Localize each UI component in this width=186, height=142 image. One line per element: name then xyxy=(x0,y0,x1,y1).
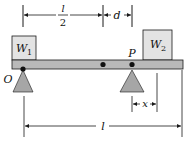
support-left xyxy=(13,70,33,92)
l-label: l xyxy=(101,120,105,133)
half-length-numerator: l xyxy=(61,3,64,14)
lever-diagram: l 2 d W 1 W 2 P O x l xyxy=(0,0,186,142)
weight-left: W 1 xyxy=(12,36,36,60)
weight-right-subscript: 2 xyxy=(161,44,166,53)
offset-label: d xyxy=(113,9,120,22)
support-right xyxy=(120,70,144,92)
center-of-mass-dot xyxy=(100,62,105,67)
weight-right: W 2 xyxy=(143,30,172,60)
origin-dot xyxy=(20,66,25,71)
weight-left-subscript: 1 xyxy=(27,48,32,57)
top-dimension: l 2 d xyxy=(23,3,132,28)
pivot-label: P xyxy=(127,47,136,60)
origin-label: O xyxy=(3,73,12,86)
x-label: x xyxy=(142,98,148,109)
half-length-denominator: 2 xyxy=(60,17,66,28)
length-dimension: l xyxy=(24,70,182,137)
beam xyxy=(12,60,183,69)
pivot-dot xyxy=(129,62,134,67)
